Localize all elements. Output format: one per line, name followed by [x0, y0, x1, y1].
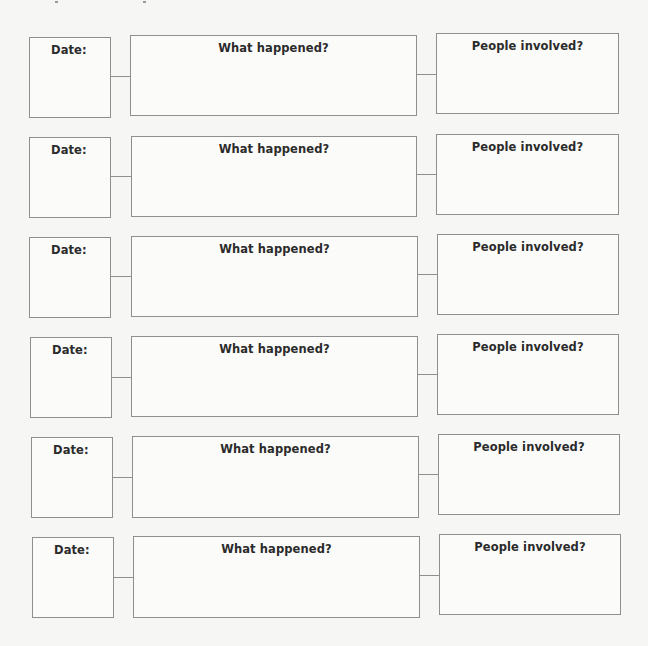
people-involved-label: People involved? — [438, 340, 618, 354]
timeline-row-6: Date: What happened? People involved? — [0, 0, 648, 86]
people-involved-label: People involved? — [440, 540, 620, 554]
date-label: Date: — [53, 443, 112, 457]
date-box[interactable]: Date: — [31, 437, 113, 518]
what-happened-box[interactable]: What happened? — [131, 336, 418, 417]
people-involved-label: People involved? — [439, 440, 619, 454]
date-label: Date: — [54, 543, 113, 557]
date-box[interactable]: Date: — [32, 537, 114, 618]
what-happened-box[interactable]: What happened? — [131, 136, 417, 217]
date-label: Date: — [51, 143, 110, 157]
date-label: Date: — [52, 343, 111, 357]
date-label: Date: — [51, 243, 110, 257]
event-to-people-connector — [419, 474, 438, 475]
event-to-people-connector — [418, 274, 437, 275]
what-happened-box[interactable]: What happened? — [133, 536, 420, 618]
date-box[interactable]: Date: — [29, 237, 111, 318]
date-box[interactable]: Date: — [29, 137, 111, 218]
people-involved-box[interactable]: People involved? — [437, 334, 619, 415]
timeline-worksheet: Date: What happened? People involved? Da… — [0, 0, 648, 646]
date-to-event-connector — [114, 577, 133, 578]
what-happened-label: What happened? — [133, 442, 418, 456]
people-involved-box[interactable]: People involved? — [439, 534, 621, 615]
date-to-event-connector — [111, 276, 131, 277]
what-happened-box[interactable]: What happened? — [131, 236, 418, 317]
event-to-people-connector — [420, 575, 439, 576]
event-to-people-connector — [417, 174, 436, 175]
event-to-people-connector — [418, 374, 437, 375]
what-happened-box[interactable]: What happened? — [132, 436, 419, 518]
date-to-event-connector — [113, 477, 132, 478]
what-happened-label: What happened? — [132, 142, 416, 156]
people-involved-box[interactable]: People involved? — [437, 234, 619, 315]
date-to-event-connector — [112, 377, 131, 378]
people-involved-label: People involved? — [438, 240, 618, 254]
people-involved-box[interactable]: People involved? — [436, 134, 619, 215]
people-involved-box[interactable]: People involved? — [438, 434, 620, 515]
people-involved-label: People involved? — [437, 140, 618, 154]
what-happened-label: What happened? — [134, 542, 419, 556]
date-to-event-connector — [111, 176, 131, 177]
what-happened-label: What happened? — [132, 242, 417, 256]
what-happened-label: What happened? — [132, 342, 417, 356]
date-box[interactable]: Date: — [30, 337, 112, 418]
